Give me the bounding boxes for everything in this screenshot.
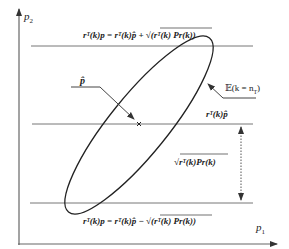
x-axis-label: p1 — [256, 222, 265, 236]
upper-bound-equation: rᵀ(k)p = rᵀ(k)p̂ + √(rᵀ(k) Pr(k)) — [83, 31, 196, 40]
estimate-label: p̂ — [80, 76, 85, 86]
lower-bound-equation: rᵀ(k)p = rᵀ(k)p̂ − √(rᵀ(k) Pr(k)) — [83, 217, 196, 226]
center-line-label: rᵀ(k)p̂ — [206, 110, 228, 119]
y-axis-label: p2 — [24, 11, 33, 25]
estimate-leader-arrow — [71, 87, 134, 119]
confidence-ellipse — [46, 20, 232, 231]
ellipse-label: 𝔼(k = nT) — [225, 84, 260, 95]
distance-label: √rᵀ(k)Pr(k) — [174, 158, 216, 167]
